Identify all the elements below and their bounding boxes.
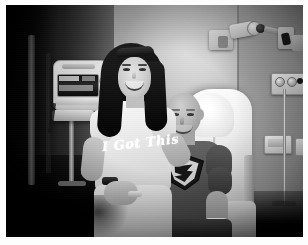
iv-pump-pole	[69, 110, 74, 185]
woman-eye-left	[123, 68, 130, 71]
iv-pump-screen-readout-3	[59, 85, 93, 91]
woman-bracelet	[128, 191, 142, 197]
iv-pump-pole-foot	[58, 181, 86, 186]
gas-panel-dial-2	[287, 77, 297, 87]
woman-eyebrow-left	[122, 64, 131, 66]
iv-pole	[283, 89, 286, 205]
man-eye-right	[187, 113, 194, 116]
wall-arm-plate-secondary	[292, 35, 303, 51]
gas-panel-port	[297, 78, 303, 84]
woman-nose	[132, 71, 136, 79]
iv-pump-base-strip	[56, 98, 99, 105]
man-eyebrow-right	[186, 109, 195, 111]
photo-print-frame: I Got This	[0, 0, 308, 245]
woman-eye-right	[139, 68, 146, 71]
woman-eyebrow-right	[138, 64, 147, 66]
iv-pump-handle	[62, 64, 95, 69]
gas-panel-dial-1	[275, 77, 285, 87]
iv-pump-screen-readout-1	[59, 76, 79, 81]
wall-arm-bracket-inner	[218, 36, 228, 48]
pole-left-background	[28, 35, 35, 185]
wall-outlet-right	[295, 138, 303, 156]
iv-pump-tray	[52, 110, 94, 121]
man-ear-right	[197, 109, 204, 120]
man-nose	[180, 116, 184, 125]
photograph: I Got This	[6, 5, 303, 237]
iv-pump-screen-readout-2	[82, 76, 95, 81]
